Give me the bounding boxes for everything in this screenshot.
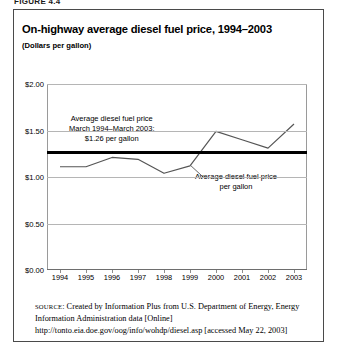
series-annotation-line2: per gallon — [195, 182, 277, 192]
x-axis-tick-label: 1997 — [130, 273, 146, 282]
x-axis-tick-label: 1998 — [156, 273, 172, 282]
source-keyword: SOURCE — [35, 303, 62, 310]
source-text: : Created by Information Plus from U.S. … — [35, 302, 299, 335]
x-axis-tick-label: 2002 — [260, 273, 276, 282]
y-axis-tick-label: $0.50 — [25, 219, 44, 228]
y-axis-tick-label: $2.00 — [25, 80, 44, 89]
x-axis-tick-mark — [112, 270, 113, 273]
gridline — [47, 84, 307, 85]
x-axis-tick-label: 2003 — [286, 273, 302, 282]
figure-label: FIGURE 4.4 — [14, 0, 61, 4]
x-axis-tick-label: 1994 — [52, 273, 68, 282]
x-axis-tick-label: 1996 — [104, 273, 120, 282]
figure-container: On-highway average diesel fuel price, 19… — [13, 9, 324, 342]
series-annotation: Average diesel fuel price per gallon — [195, 172, 277, 192]
page-title: On-highway average diesel fuel price, 19… — [22, 23, 272, 35]
average-reference-line — [47, 151, 307, 154]
x-axis-tick-mark — [216, 270, 217, 273]
source-note: SOURCE: Created by Information Plus from… — [35, 301, 333, 336]
x-axis-tick-mark — [268, 270, 269, 273]
x-axis-tick-label: 1999 — [182, 273, 198, 282]
gridline — [47, 224, 307, 225]
average-annotation-line1: Average diesel fuel price — [69, 114, 154, 124]
y-axis-tick-label: $0.00 — [25, 266, 44, 275]
average-annotation-line3: $1.26 per gallon — [69, 134, 154, 144]
x-axis-tick-label: 2001 — [234, 273, 250, 282]
x-axis-tick-mark — [242, 270, 243, 273]
chart-subtitle: (Dollars per gallon) — [22, 41, 91, 50]
average-annotation-line2: March 1994–March 2003: — [69, 124, 154, 134]
x-axis-tick-label: 2000 — [208, 273, 224, 282]
x-axis-tick-mark — [294, 270, 295, 273]
average-annotation: Average diesel fuel price March 1994–Mar… — [69, 114, 154, 144]
gridline — [47, 131, 307, 132]
x-axis-tick-mark — [190, 270, 191, 273]
y-axis-tick-label: $1.50 — [25, 126, 44, 135]
chart-plot: Average diesel fuel price March 1994–Mar… — [47, 84, 307, 270]
x-axis-tick-mark — [164, 270, 165, 273]
x-axis-tick-mark — [60, 270, 61, 273]
y-axis-tick-label: $1.00 — [25, 173, 44, 182]
x-axis-tick-label: 1995 — [78, 273, 94, 282]
x-axis-tick-mark — [138, 270, 139, 273]
x-axis-tick-mark — [86, 270, 87, 273]
gridline — [47, 177, 307, 178]
